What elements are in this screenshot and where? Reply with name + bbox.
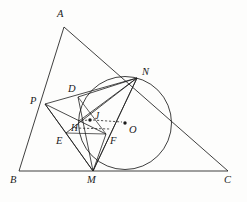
point-label-M: M — [87, 175, 96, 186]
point-label-B: B — [10, 175, 16, 186]
chord-PN — [45, 78, 137, 104]
segment-P-to-E — [45, 104, 66, 133]
point-label-E: E — [56, 136, 62, 147]
cevian-N-to-H — [79, 78, 137, 121]
side-AB — [19, 27, 64, 171]
geometry-figure: A B C P N M D E F H J O — [0, 0, 247, 202]
point-label-C: C — [224, 175, 231, 186]
point-label-J: J — [95, 112, 99, 122]
point-label-A: A — [57, 9, 63, 20]
dot-O — [123, 121, 126, 124]
point-label-F: F — [110, 136, 116, 147]
cevian-N-to-D — [78, 78, 137, 97]
cevian-M-to-F — [93, 134, 106, 171]
point-label-D: D — [68, 84, 76, 95]
point-label-N: N — [142, 67, 149, 78]
dot-J — [88, 118, 91, 121]
point-label-H: H — [71, 124, 78, 134]
dashed-H-to-F — [75, 128, 110, 129]
point-label-P: P — [30, 96, 36, 107]
point-label-O: O — [129, 125, 137, 136]
geometry-canvas — [0, 0, 247, 202]
